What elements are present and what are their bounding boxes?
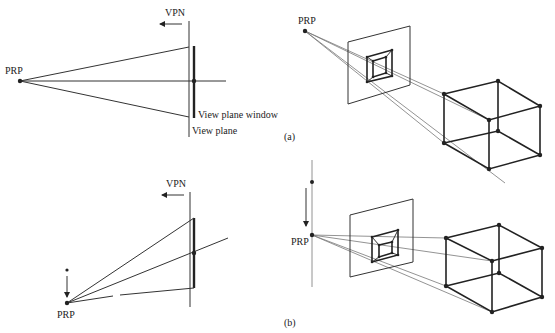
original-prp-dot	[310, 180, 314, 184]
projected-cube	[371, 229, 400, 264]
panel-b-perspective-view: PRP	[291, 160, 544, 314]
panel-a-side-view: VPN PRP View plane window View plane	[5, 7, 279, 137]
view-plane	[350, 199, 413, 277]
cube	[444, 223, 544, 314]
view-plane-window-label: View plane window	[198, 109, 279, 120]
view-plane	[348, 26, 410, 104]
prp-label: PRP	[298, 15, 316, 26]
prp-dot	[303, 29, 307, 33]
panel-b-side-view: VPN PRP	[57, 178, 228, 320]
diagram-canvas: VPN PRP View plane window View plane PRP	[0, 0, 555, 333]
panel-a-perspective-view: PRP	[298, 15, 542, 183]
projector-top	[20, 47, 189, 81]
prp-dot	[65, 301, 69, 305]
projected-cube	[366, 49, 394, 84]
center-axis-line	[67, 238, 228, 303]
cube	[442, 79, 542, 171]
figure: VPN PRP View plane window View plane PRP	[0, 0, 555, 333]
window-center-dot	[192, 251, 196, 255]
vpn-label: VPN	[165, 7, 185, 18]
vpn-label: VPN	[166, 178, 186, 189]
view-plane-label: View plane	[192, 125, 238, 136]
caption-a: (a)	[284, 131, 295, 143]
caption-b: (b)	[284, 317, 296, 329]
prp-label: PRP	[5, 65, 23, 76]
prp-label: PRP	[57, 309, 75, 320]
original-prp-dot	[65, 268, 68, 271]
projector-bottom	[20, 81, 189, 117]
prp-dot	[310, 233, 314, 237]
prp-dot	[18, 79, 22, 83]
prp-label: PRP	[291, 236, 309, 247]
window-center-dot	[192, 79, 196, 83]
